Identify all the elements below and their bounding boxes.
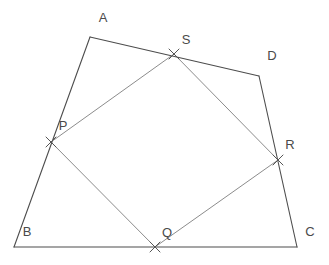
edge-DC (259, 76, 297, 247)
inner-quadrilateral-edges (51, 54, 278, 247)
vertex-label-B: B (23, 224, 32, 239)
vertex-label-C: C (305, 224, 314, 239)
inner-vertex-labels: P S R Q (59, 32, 295, 240)
edge-SR (174, 54, 278, 160)
edge-AD (90, 37, 259, 76)
outer-quadrilateral-edges (14, 37, 297, 247)
vertex-label-A: A (99, 10, 108, 25)
edge-BA (14, 37, 90, 247)
marker-S-cross-icon (169, 49, 179, 59)
point-label-R: R (285, 137, 294, 152)
midpoint-markers (46, 49, 283, 252)
edge-RQ (155, 160, 278, 247)
point-label-S: S (182, 32, 191, 47)
point-label-P: P (59, 118, 68, 133)
edge-PS (51, 54, 174, 142)
geometry-figure: A D C B P S R Q (0, 0, 329, 265)
point-label-Q: Q (162, 225, 172, 240)
vertex-label-D: D (267, 48, 276, 63)
edge-QP (51, 142, 155, 247)
figure-canvas: A D C B P S R Q (0, 0, 329, 265)
